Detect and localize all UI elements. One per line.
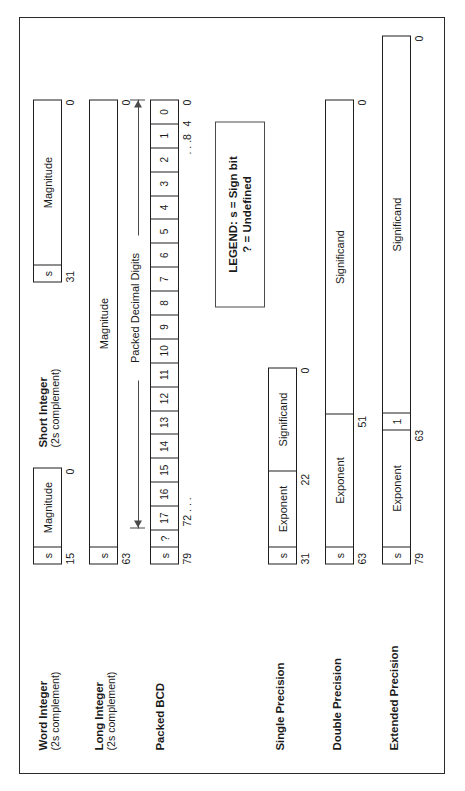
bcd-digit-9: 9 <box>151 314 178 338</box>
bcd-digit-13: 13 <box>151 410 178 434</box>
row-label-single-precision: Single Precision <box>274 600 287 750</box>
bcd-digit-1: 1 <box>151 123 178 147</box>
field-magnitude: Magnitude <box>34 100 61 264</box>
span-caption: Packed Decimal Digits <box>129 235 141 380</box>
field-magnitude: Magnitude <box>90 100 117 546</box>
bitfield-bar-short-integer: s Magnitude <box>33 99 62 282</box>
bit-index-mid: 63 <box>413 429 425 441</box>
bitfield-bar-double-precision: s Exponent Significand <box>325 99 354 564</box>
bit-index-4: 4 <box>181 120 193 126</box>
bitfield-bar-packed-bcd: s ? 17 16 15 14 13 12 11 10 9 8 7 6 5 4 … <box>150 99 179 564</box>
field-exponent: Exponent <box>326 413 353 546</box>
span-arrowhead-right <box>134 100 142 107</box>
page-frame: Word Integer (2s complement) s Magnitude… <box>19 17 445 774</box>
field-exponent: Exponent <box>269 470 296 546</box>
bit-index-right: 0 <box>64 99 76 105</box>
bcd-digit-11: 11 <box>151 362 178 386</box>
field-exponent: Exponent <box>383 429 410 546</box>
bit-index-0: 0 <box>181 99 193 105</box>
bit-index-79: 79 <box>181 552 193 564</box>
bitfield-bar-single-precision: s Exponent Significand <box>268 367 297 564</box>
format-subtitle: (2s complement) <box>50 287 62 447</box>
bcd-digit-17: 17 <box>151 505 178 529</box>
bcd-digit-0: 0 <box>151 100 178 123</box>
bcd-digit-6: 6 <box>151 242 178 266</box>
field-sign-bit: s <box>326 546 353 563</box>
bcd-digit-7: 7 <box>151 266 178 290</box>
row-label-double-precision: Double Precision <box>331 600 344 750</box>
bit-index-left: 31 <box>64 270 76 282</box>
bcd-digit-14: 14 <box>151 433 178 457</box>
format-subtitle: (2s complement) <box>106 600 118 750</box>
bitfield-bar-long-integer: s Magnitude <box>89 99 118 564</box>
legend-box: LEGEND: s = Sign bit ? = Undefined <box>215 121 265 307</box>
field-significand: Significand <box>383 36 410 412</box>
field-sign-bit: s <box>269 546 296 563</box>
bcd-digit-15: 15 <box>151 457 178 481</box>
bcd-digit-4: 4 <box>151 195 178 219</box>
data-formats-figure: Word Integer (2s complement) s Magnitude… <box>19 17 445 774</box>
format-row-packed-bcd: Packed BCD Packed Decimal Digits s ? 17 … <box>150 20 210 750</box>
bit-index-right: 0 <box>413 35 425 41</box>
field-undefined: ? <box>151 529 178 546</box>
bit-index-left: 31 <box>299 552 311 564</box>
bit-index-72: 72 . . . <box>181 497 193 526</box>
bit-index-mid: 51 <box>356 415 368 427</box>
bcd-digit-2: 2 <box>151 147 178 171</box>
field-sign-bit: s <box>383 546 410 563</box>
bcd-digit-8: 8 <box>151 290 178 314</box>
bcd-digit-10: 10 <box>151 338 178 362</box>
field-significand: Significand <box>326 100 353 413</box>
field-integer-bit: 1 <box>383 412 410 429</box>
bit-index-right: 0 <box>299 367 311 373</box>
bcd-digit-3: 3 <box>151 171 178 195</box>
format-name: Extended Precision <box>388 600 401 750</box>
bit-index-left: 63 <box>120 552 132 564</box>
span-arrowhead-left <box>134 520 142 527</box>
bcd-digit-16: 16 <box>151 481 178 505</box>
row-label-extended-precision: Extended Precision <box>388 600 401 750</box>
bitfield-bar-extended-precision: s Exponent 1 Significand <box>382 35 411 564</box>
format-name: Long Integer <box>93 600 106 750</box>
row-label-long-integer: Long Integer (2s complement) <box>93 600 118 750</box>
row-label-packed-bcd: Packed BCD <box>154 600 167 750</box>
format-row-single-precision: Single Precision s Exponent Significand … <box>268 20 312 750</box>
format-name: Packed BCD <box>154 600 167 750</box>
packed-decimal-digits-span: Packed Decimal Digits <box>120 99 146 528</box>
field-sign-bit: s <box>151 546 178 563</box>
field-significand: Significand <box>269 368 296 470</box>
bit-index-mid: 22 <box>299 473 311 485</box>
bit-index-right: 0 <box>356 99 368 105</box>
field-sign-bit: s <box>90 546 117 563</box>
bit-index-left: 79 <box>413 552 425 564</box>
bit-index-8: . . .8 <box>181 134 193 154</box>
format-name: Double Precision <box>331 600 344 750</box>
bcd-digit-5: 5 <box>151 218 178 242</box>
format-row-short-integer: Short Integer (2s complement) s Magnitud… <box>33 20 77 750</box>
format-name: Short Integer <box>37 287 50 447</box>
legend-line-sign-bit: LEGEND: s = Sign bit <box>226 156 240 273</box>
legend-line-undefined: ? = Undefined <box>240 176 254 252</box>
format-name: Single Precision <box>274 600 287 750</box>
row-label-short-integer: Short Integer (2s complement) <box>37 287 62 447</box>
format-row-double-precision: Double Precision s Exponent Significand … <box>325 20 369 750</box>
bit-index-left: 63 <box>356 552 368 564</box>
format-row-extended-precision: Extended Precision s Exponent 1 Signific… <box>382 20 426 750</box>
field-sign-bit: s <box>34 264 61 281</box>
bcd-digit-12: 12 <box>151 386 178 410</box>
